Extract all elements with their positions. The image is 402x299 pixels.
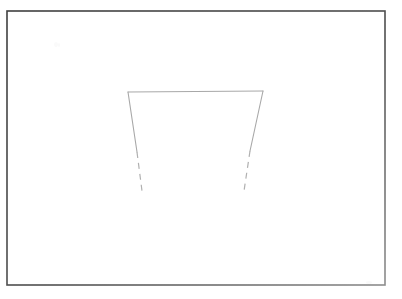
scanned-figure-page: Scanned Geometric Figure Open trapezoid:… xyxy=(0,0,402,299)
trapezoid-right-leg-solid xyxy=(250,91,263,151)
trapezoid-left-leg-solid xyxy=(128,92,137,152)
figure-canvas xyxy=(0,0,402,299)
trapezoid-top-edge xyxy=(128,91,263,92)
page-border xyxy=(7,11,385,285)
trapezoid-right-leg-dashed xyxy=(244,151,250,191)
trapezoid-left-leg-dashed xyxy=(137,152,142,191)
